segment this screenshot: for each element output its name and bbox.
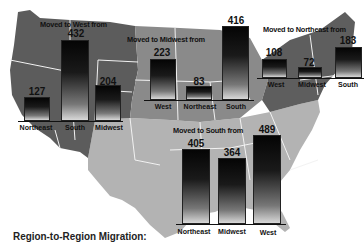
category-label: Northeast [175, 227, 214, 236]
value-label: 364 [219, 146, 244, 158]
category-label: Midwest [216, 227, 248, 236]
axis-line [176, 224, 286, 225]
figure-title: Region-to-Region Migration: [13, 230, 147, 242]
bar-west [253, 135, 281, 224]
chart-moved-to-south: Moved to South from 405 364 489 Northeas… [0, 0, 364, 242]
value-label: 489 [254, 123, 279, 135]
chart-title: Moved to South from [173, 126, 243, 135]
value-label: 405 [183, 137, 208, 149]
bar-midwest [218, 158, 246, 224]
category-label: West [256, 228, 281, 237]
bar-northeast [182, 149, 210, 224]
